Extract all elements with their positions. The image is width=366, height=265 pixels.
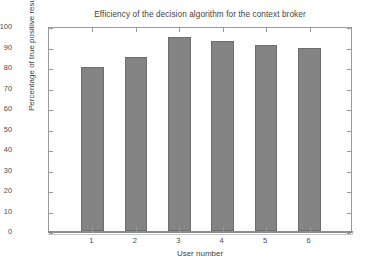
plot-area (48, 27, 352, 232)
y-tick-mark (49, 90, 53, 91)
x-axis-title: User number (48, 249, 352, 258)
y-tick-mark (49, 28, 53, 29)
y-tick-mark (49, 110, 53, 111)
bar (168, 37, 191, 231)
y-tick-mark-right (347, 90, 351, 91)
y-tick-mark-right (347, 28, 351, 29)
bar (255, 45, 278, 231)
y-tick-mark (49, 69, 53, 70)
y-tick-mark-right (347, 49, 351, 50)
x-tick-mark-top (223, 28, 224, 32)
y-tick-label: 90 (0, 44, 12, 51)
y-tick-mark (49, 49, 53, 50)
y-tick-label: 0 (0, 228, 12, 235)
y-tick-label: 70 (0, 85, 12, 92)
x-tick-mark-top (179, 28, 180, 32)
y-tick-mark-right (347, 110, 351, 111)
y-tick-mark-right (347, 131, 351, 132)
y-tick-mark-right (347, 151, 351, 152)
y-tick-label: 40 (0, 146, 12, 153)
x-tick-label: 3 (163, 236, 193, 245)
y-tick-mark-right (347, 69, 351, 70)
x-tick-label: 4 (207, 236, 237, 245)
bar (298, 48, 321, 231)
y-tick-label: 20 (0, 187, 12, 194)
y-tick-label: 50 (0, 126, 12, 133)
y-tick-mark (49, 172, 53, 173)
y-axis-title: Percentage of true positive results (27, 0, 36, 141)
x-tick-mark-top (266, 28, 267, 32)
y-tick-label: 10 (0, 208, 12, 215)
x-axis-baseline-shadow (48, 234, 353, 235)
x-tick-mark-top (136, 28, 137, 32)
y-tick-label: 60 (0, 105, 12, 112)
y-tick-label: 80 (0, 64, 12, 71)
x-tick-label: 6 (294, 236, 324, 245)
y-tick-label: 30 (0, 167, 12, 174)
y-tick-mark (49, 131, 53, 132)
chart-figure: Efficiency of the decision algorithm for… (0, 0, 366, 265)
bar (125, 57, 148, 231)
x-tick-mark-top (310, 28, 311, 32)
y-tick-mark-right (347, 192, 351, 193)
y-tick-mark-right (347, 172, 351, 173)
bar (211, 41, 234, 231)
x-tick-mark-top (92, 28, 93, 32)
y-tick-mark-right (347, 213, 351, 214)
y-tick-label: 100 (0, 23, 12, 30)
chart-title: Efficiency of the decision algorithm for… (48, 10, 352, 19)
bar (81, 67, 104, 231)
x-tick-label: 1 (76, 236, 106, 245)
y-tick-mark (49, 151, 53, 152)
y-tick-mark (49, 192, 53, 193)
y-tick-mark (49, 213, 53, 214)
x-axis-baseline (48, 231, 353, 233)
x-tick-label: 5 (250, 236, 280, 245)
x-tick-label: 2 (120, 236, 150, 245)
plot-inner (49, 28, 351, 231)
